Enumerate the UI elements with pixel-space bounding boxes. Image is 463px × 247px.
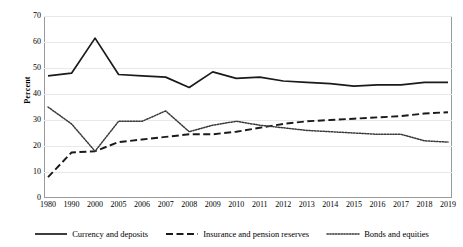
y-tick-label: 30 — [1, 116, 41, 124]
legend-item[interactable]: Insurance and pension reserves — [165, 229, 309, 239]
y-axis-tick-labels: 706050403020100 — [0, 0, 41, 214]
legend-label: Bonds and equities — [364, 229, 429, 239]
y-tick-label: 50 — [1, 64, 41, 72]
x-tick-label: 2007 — [158, 200, 174, 210]
x-tick-label: 2011 — [252, 200, 268, 210]
x-tick-label: 2009 — [205, 200, 221, 210]
y-tick-label: 60 — [1, 38, 41, 46]
y-tick-label: 0 — [1, 194, 41, 202]
x-tick-label: 1980 — [40, 200, 56, 210]
x-tick-label: 2008 — [181, 200, 197, 210]
legend-item[interactable]: Currency and deposits — [34, 229, 148, 239]
legend-label: Insurance and pension reserves — [203, 229, 309, 239]
x-tick-label: 1990 — [64, 200, 80, 210]
legend-swatch-dashed-icon — [165, 230, 199, 238]
x-tick-label: 2005 — [111, 200, 127, 210]
x-tick-label: 2012 — [275, 200, 291, 210]
series-line-0 — [48, 38, 448, 87]
series-line-1 — [48, 112, 448, 177]
x-tick-label: 2018 — [416, 200, 432, 210]
legend-swatch-dotted-icon — [326, 230, 360, 238]
x-tick-label: 2010 — [228, 200, 244, 210]
x-tick-label: 2019 — [440, 200, 456, 210]
line-chart-figure: Percent 706050403020100 1980199020002005… — [0, 0, 463, 247]
y-tick-label: 20 — [1, 142, 41, 150]
x-tick-label: 2017 — [393, 200, 409, 210]
x-tick-label: 2014 — [322, 200, 338, 210]
legend-label: Currency and deposits — [72, 229, 148, 239]
legend-item[interactable]: Bonds and equities — [326, 229, 429, 239]
x-tick-label: 2006 — [134, 200, 150, 210]
x-axis-tick-labels: 1980199020002005200620072008200920102011… — [44, 200, 452, 214]
y-tick-label: 40 — [1, 90, 41, 98]
plot-series-canvas — [44, 16, 452, 198]
y-tick-label: 70 — [1, 12, 41, 20]
y-tick-label: 10 — [1, 168, 41, 176]
x-tick-label: 2015 — [346, 200, 362, 210]
x-tick-label: 2000 — [87, 200, 103, 210]
plot-area — [44, 16, 452, 198]
chart-legend: Currency and depositsInsurance and pensi… — [0, 226, 463, 242]
x-tick-label: 2013 — [299, 200, 315, 210]
legend-swatch-solid-icon — [34, 230, 68, 238]
x-tick-label: 2016 — [369, 200, 385, 210]
